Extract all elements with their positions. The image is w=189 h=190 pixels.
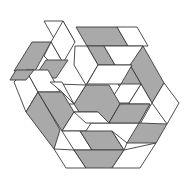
hexagon-tiling-diagram <box>0 0 189 190</box>
puzzle-figure <box>0 0 189 190</box>
gray-parallelogram-tile <box>127 123 167 143</box>
